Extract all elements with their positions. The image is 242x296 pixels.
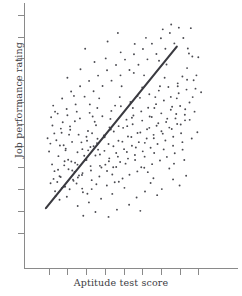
data-point xyxy=(93,90,95,92)
data-point xyxy=(88,201,90,203)
data-point xyxy=(164,139,166,141)
data-point xyxy=(172,136,174,138)
data-point xyxy=(94,61,96,63)
data-point xyxy=(197,56,199,58)
data-point xyxy=(69,129,71,131)
data-point xyxy=(148,93,150,95)
data-point xyxy=(135,147,137,149)
data-point xyxy=(179,185,181,187)
data-point xyxy=(97,75,99,77)
data-point xyxy=(149,116,151,118)
data-point xyxy=(86,193,88,195)
data-point xyxy=(113,131,115,133)
data-point xyxy=(140,110,142,112)
data-point xyxy=(147,107,149,109)
data-point xyxy=(74,162,76,164)
data-point xyxy=(150,182,152,184)
data-point xyxy=(156,125,158,127)
data-point xyxy=(146,138,148,140)
data-point xyxy=(162,133,164,135)
data-point xyxy=(54,111,56,113)
data-point xyxy=(122,177,124,179)
data-point xyxy=(152,177,154,179)
data-point xyxy=(143,167,145,169)
data-point xyxy=(186,67,188,69)
data-point xyxy=(153,134,155,136)
data-point xyxy=(120,74,122,76)
data-point xyxy=(56,181,58,183)
data-point xyxy=(153,107,155,109)
data-point xyxy=(90,170,92,172)
data-point xyxy=(59,175,61,177)
data-point xyxy=(48,151,50,153)
data-point xyxy=(111,193,113,195)
data-point xyxy=(114,105,116,107)
data-point xyxy=(162,28,164,30)
data-point xyxy=(70,91,72,93)
data-point xyxy=(118,181,120,183)
data-point xyxy=(109,118,111,120)
data-point xyxy=(103,150,105,152)
data-point xyxy=(190,27,192,29)
data-point xyxy=(170,109,172,111)
data-point xyxy=(170,24,172,26)
data-point xyxy=(64,160,66,162)
data-point xyxy=(181,141,183,143)
data-point xyxy=(139,210,141,212)
data-point xyxy=(106,170,108,172)
data-point xyxy=(192,96,194,98)
data-point xyxy=(159,85,161,87)
scatter-points xyxy=(47,24,202,218)
data-point xyxy=(50,116,52,118)
data-point xyxy=(200,91,202,93)
data-point xyxy=(108,160,110,162)
data-point xyxy=(77,151,79,153)
data-point xyxy=(160,112,162,114)
data-point xyxy=(119,161,121,163)
data-point xyxy=(79,117,81,119)
data-point xyxy=(155,103,157,105)
data-point xyxy=(186,89,188,91)
data-point xyxy=(68,168,70,170)
data-point xyxy=(78,134,80,136)
data-point xyxy=(182,149,184,151)
data-point xyxy=(69,125,71,127)
data-point xyxy=(154,96,156,98)
data-point xyxy=(71,141,73,143)
data-point xyxy=(53,178,55,180)
data-point xyxy=(139,132,141,134)
data-point xyxy=(176,97,178,99)
data-point xyxy=(161,188,163,190)
data-point xyxy=(178,92,180,94)
data-point xyxy=(73,95,75,97)
data-point xyxy=(99,165,101,167)
data-point xyxy=(164,48,166,50)
data-point xyxy=(119,96,121,98)
data-point xyxy=(147,171,149,173)
data-point xyxy=(173,163,175,165)
data-point xyxy=(115,166,117,168)
data-point xyxy=(99,154,101,156)
data-point xyxy=(129,174,131,176)
data-point xyxy=(132,123,134,125)
data-point xyxy=(132,115,134,117)
data-point xyxy=(118,140,120,142)
data-point xyxy=(123,187,125,189)
data-point xyxy=(140,166,142,168)
data-point xyxy=(91,179,93,181)
data-point xyxy=(95,211,97,213)
data-point xyxy=(160,37,162,39)
data-point xyxy=(134,159,136,161)
data-point xyxy=(132,107,134,109)
data-point xyxy=(51,163,53,165)
data-point xyxy=(98,97,100,99)
data-point xyxy=(127,136,129,138)
data-point xyxy=(91,188,93,190)
data-point xyxy=(95,183,97,185)
data-point xyxy=(122,127,124,129)
data-point xyxy=(184,119,186,121)
data-point xyxy=(144,142,146,144)
data-point xyxy=(148,127,150,129)
data-point xyxy=(129,69,131,71)
data-point xyxy=(158,60,160,62)
